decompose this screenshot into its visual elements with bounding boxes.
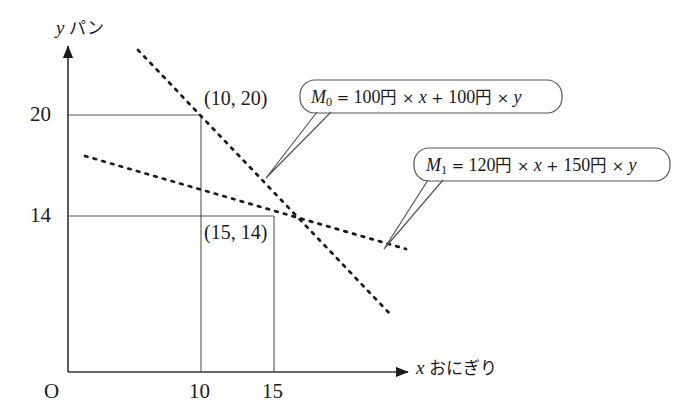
y-axis-name: パン	[69, 18, 104, 38]
m0-symbol: M	[311, 87, 326, 107]
x-axis-variable: x	[416, 357, 424, 378]
m1-equals: =	[452, 157, 464, 174]
callout-label-m1: M1 = 120円 × x + 150円 × y	[426, 156, 637, 176]
y-axis-label: y パン	[56, 18, 104, 37]
m0-times-x: ×	[402, 89, 414, 106]
y-tick-label-20: 20	[30, 104, 51, 125]
m0-unit-x: 円	[380, 88, 397, 107]
x-tick-label-10: 10	[189, 381, 210, 402]
m1-coef-x: 120	[468, 155, 495, 175]
m0-subscript: 0	[326, 95, 332, 109]
y-axis-variable: y	[56, 17, 64, 38]
budget-line-figure: y パン x おにぎり 20 14 10 15 O (10, 20) (15, …	[0, 0, 696, 420]
m0-unit-y: 円	[475, 88, 492, 107]
m1-plus: +	[546, 157, 558, 174]
m1-var-y: y	[629, 155, 637, 175]
m0-plus: +	[431, 89, 443, 106]
m1-coef-y: 150	[563, 155, 590, 175]
y-tick-label-14: 14	[30, 205, 51, 226]
m0-times-y: ×	[497, 89, 509, 106]
point-label-15-14: (15, 14)	[204, 222, 267, 242]
m1-var-x: x	[534, 155, 542, 175]
m0-coef-x: 100	[353, 87, 380, 107]
origin-label: O	[44, 381, 59, 402]
m1-symbol: M	[426, 155, 441, 175]
m1-subscript: 1	[441, 163, 447, 177]
point-label-10-20: (10, 20)	[204, 88, 267, 108]
m1-times-x: ×	[517, 157, 529, 174]
callout-leader-m0	[266, 112, 331, 178]
x-axis-label: x おにぎり	[416, 358, 497, 377]
callout-leader-m1	[384, 180, 443, 249]
x-axis-name: おにぎり	[429, 358, 497, 378]
diagram-canvas	[0, 0, 696, 420]
m1-unit-y: 円	[590, 156, 607, 175]
m0-var-x: x	[419, 87, 427, 107]
m0-coef-y: 100	[448, 87, 475, 107]
m1-times-y: ×	[612, 157, 624, 174]
callout-label-m0: M0 = 100円 × x + 100円 × y	[311, 88, 522, 108]
m0-var-y: y	[514, 87, 522, 107]
m1-unit-x: 円	[495, 156, 512, 175]
x-tick-label-15: 15	[262, 381, 283, 402]
m0-equals: =	[337, 89, 349, 106]
